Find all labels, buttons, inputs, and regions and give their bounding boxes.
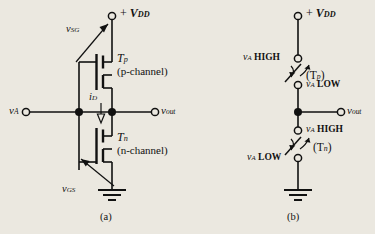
switch-n-arrowhead-up: [304, 138, 310, 143]
panel-a-caption: (a): [100, 212, 112, 223]
switch-n-low-sub: A: [251, 154, 255, 161]
vdd-sub-b: DD: [324, 10, 336, 19]
circuit-linework: [0, 0, 375, 234]
output-label-b: vout: [347, 105, 361, 116]
tp-name: T: [117, 51, 124, 65]
vsg-leader-arrowhead: [100, 24, 109, 32]
tn-sub: n: [124, 134, 128, 143]
switch-p-high-sub: A: [247, 54, 251, 61]
vsg-sub: SG: [71, 26, 80, 34]
switch-p-high-label: vA HIGH: [243, 52, 280, 63]
input-terminal-node-a: [22, 108, 29, 115]
vgs-sub: GS: [67, 186, 76, 194]
transistor-n-label: Tn: [117, 131, 128, 143]
figure-cmos-inverter-and-switch-model: + VDD vSG Tp (p-channel) vA vout iD Tn (…: [0, 0, 375, 234]
vdd-sign-a: +: [120, 6, 127, 20]
switch-n-high-state: HIGH: [317, 124, 343, 134]
tn-name: T: [117, 130, 124, 144]
va-sub: A: [14, 107, 19, 116]
switch-n-contact-low: [294, 154, 301, 161]
id-label: iD: [89, 92, 97, 103]
vdd-terminal-node-a: [108, 12, 115, 19]
vdd-symbol-b: V: [316, 6, 324, 20]
n-channel-label: (n-channel): [117, 145, 168, 156]
vdd-terminal-node-b: [294, 12, 301, 19]
switch-n-high-label: vA HIGH: [306, 124, 343, 135]
vout-sub-b: out: [352, 107, 362, 116]
vgs-label: vGS: [62, 184, 75, 195]
transistor-p-label: Tp: [117, 52, 128, 64]
switch-n-label-open: (T: [313, 141, 324, 153]
vout-sub-a: out: [166, 107, 176, 116]
output-terminal-node-b: [337, 108, 344, 115]
vsg-label: vSG: [66, 24, 79, 35]
switch-n-label: (Tn): [313, 142, 332, 154]
output-terminal-node-a: [151, 108, 158, 115]
switch-n-high-sub: A: [310, 126, 314, 133]
switch-p-contact-low: [294, 81, 301, 88]
input-gate-junction-dot: [75, 108, 83, 116]
id-arrow-head: [97, 114, 104, 123]
panel-a-caption-text: (a): [100, 211, 112, 222]
tp-sub: p: [124, 55, 128, 64]
vdd-sign-b: +: [306, 6, 313, 20]
switch-p-contact-high: [294, 55, 301, 62]
id-sub: D: [92, 94, 97, 102]
panel-b-caption: (b): [287, 212, 299, 223]
vdd-label-b: + VDD: [306, 7, 336, 19]
switch-p-low-sub: A: [310, 81, 314, 88]
input-label-a: vA: [9, 105, 18, 116]
switch-p-high-state: HIGH: [254, 52, 280, 62]
switch-n-label-close: ): [328, 141, 332, 153]
panel-b-caption-text: (b): [287, 211, 299, 222]
vdd-symbol-a: V: [130, 6, 138, 20]
switch-n-low-label: vA LOW: [247, 152, 281, 163]
output-label-a: vout: [161, 105, 175, 116]
switch-n-contact-high: [294, 127, 301, 134]
vdd-sub-a: DD: [138, 10, 150, 19]
n-channel-text: (n-channel): [117, 144, 168, 156]
switch-p-low-state: LOW: [317, 79, 340, 89]
switch-p-low-label: vA LOW: [306, 79, 340, 90]
p-channel-label: (p-channel): [117, 66, 168, 77]
p-channel-text: (p-channel): [117, 65, 168, 77]
switch-n-low-state: LOW: [258, 152, 281, 162]
vdd-label-a: + VDD: [120, 7, 150, 19]
